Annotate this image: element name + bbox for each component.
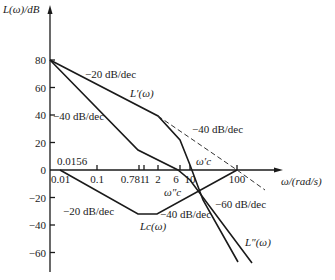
x-tick-2: 2	[155, 173, 161, 185]
y-tick-80: 80	[35, 54, 47, 66]
bode-plot: 80 60 40 20 0 −20 −40 −60 L(ω)/dB 0.0156…	[0, 0, 335, 280]
x-tick-6: 6	[173, 173, 179, 185]
y-axis-label: L(ω)/dB	[2, 3, 40, 16]
x-tick-0.0156: 0.0156	[57, 155, 88, 167]
y-tick-neg60: −60	[29, 247, 47, 259]
x-axis-label: ω/(rad/s)	[281, 175, 322, 188]
annotation-L-double-prime: L″(ω)	[244, 236, 271, 249]
annotation-slope-minus20-bottom: −20 dB/dec	[63, 205, 114, 217]
y-axis-arrow-icon	[48, 5, 53, 14]
annotation-slope-minus40-bottom: −40 dB/dec	[160, 208, 211, 220]
y-tick-neg20: −20	[29, 192, 47, 204]
x-tick-0.781: 0.781	[121, 173, 146, 185]
y-tick-60: 60	[35, 82, 47, 94]
annotation-omega-c-prime: ω′c	[196, 155, 211, 167]
y-ticks	[50, 60, 55, 253]
annotation-slope-minus60: −60 dB/dec	[215, 198, 266, 210]
y-tick-neg40: −40	[29, 219, 47, 231]
y-tick-20: 20	[35, 137, 47, 149]
y-tick-40: 40	[35, 109, 47, 121]
x-axis-arrow-icon	[274, 168, 283, 173]
y-tick-0: 0	[41, 164, 47, 176]
x-tick-1: 1	[144, 173, 150, 185]
x-tick-100: 100	[229, 173, 246, 185]
x-tick-0.1: 0.1	[90, 173, 104, 185]
annotation-slope-minus20-top: −20 dB/dec	[85, 68, 136, 80]
annotation-omega-c-double-prime: ω″c	[164, 186, 181, 198]
annotation-L-prime: L′(ω)	[129, 87, 154, 100]
annotation-slope-minus40-left: −40 dB/dec	[53, 110, 104, 122]
annotation-slope-minus40-dashed: −40 dB/dec	[192, 123, 243, 135]
annotation-Lc: Lc(ω)	[139, 220, 166, 233]
x-ticks	[97, 165, 237, 170]
